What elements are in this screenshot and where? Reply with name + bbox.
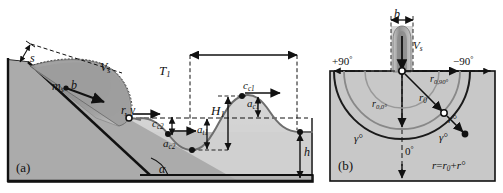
label-slide-width-b: b xyxy=(71,79,77,91)
label-water-depth: h xyxy=(304,146,310,158)
reservoir-plan-area xyxy=(330,71,495,181)
label-slide-mass: ms xyxy=(52,80,64,94)
label-plus-90-degrees: +90° xyxy=(332,56,352,67)
r0-arc-point xyxy=(441,110,447,116)
label-slide-velocity: Vs xyxy=(100,61,110,75)
panel-b-tag: (b) xyxy=(338,158,353,174)
label-slope-angle: α xyxy=(159,163,165,175)
label-r0-90: r0,90° xyxy=(430,74,448,85)
label-minus-90-degrees: −90° xyxy=(453,56,473,67)
outer-arc-point xyxy=(462,131,469,138)
label-crest1-amplitude: ac1 xyxy=(247,98,259,111)
label-zero-degrees: 0° xyxy=(405,146,414,157)
label-crest2-amplitude: ac2 xyxy=(163,138,175,151)
label-trough1-amplitude: at1 xyxy=(197,124,208,137)
label-slide-thickness: s xyxy=(30,52,35,64)
label-r0: r0 xyxy=(419,92,427,105)
slide-centroid-dot xyxy=(63,85,68,90)
label-r-prime: r° xyxy=(448,114,457,125)
label-r-gamma: r, γ xyxy=(121,104,135,116)
label-b-width-plan: b xyxy=(394,8,400,20)
label-slide-velocity-plan: Vs xyxy=(413,40,423,53)
label-crest1-celerity: cc1 xyxy=(243,80,255,93)
panel-a-profile-view: s ms b Vs r, γ T1 cc2 ac2 at1 H1 cc1 ac1… xyxy=(0,0,320,193)
label-wave-period: T1 xyxy=(159,64,171,79)
panel-a-tag: (a) xyxy=(16,160,30,176)
label-crest2-celerity: cc2 xyxy=(152,118,164,131)
figure-container: s ms b Vs r, γ T1 cc2 ac2 at1 H1 cc1 ac1… xyxy=(0,0,503,193)
panel-b-plan-view: b Vs +90° −90° r0,90° r0,0° r0 r° γ° γ° … xyxy=(320,0,503,193)
water-depth-top-point xyxy=(297,129,303,135)
label-gamma-right: γ° xyxy=(439,132,448,143)
label-gamma-left: γ° xyxy=(354,133,363,144)
label-wave-height: H1 xyxy=(211,104,225,119)
label-radius-equation: r=r0+r° xyxy=(432,160,465,173)
label-r0-0: r0,0° xyxy=(372,99,387,110)
